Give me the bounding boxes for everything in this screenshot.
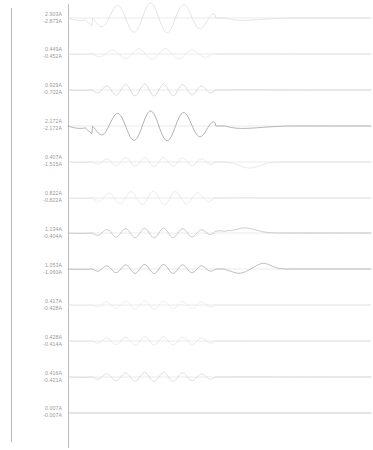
trace-row[interactable]: 0.407A-1.515A <box>0 145 373 179</box>
trace-value-labels: 0.449A-0.452A <box>0 46 64 60</box>
trace-row[interactable]: 1.134A-0.404A <box>0 216 373 250</box>
trace-value-labels: 0.428A-0.414A <box>0 334 64 348</box>
trace-max-label: 0.929A <box>0 82 64 89</box>
trace-max-label: 1.053A <box>0 262 64 269</box>
trace-value-labels: 0.417A-0.428A <box>0 298 64 312</box>
trace-row[interactable]: 2.903A-2.873A <box>0 1 373 35</box>
trace-value-labels: 1.053A-1.060A <box>0 262 64 276</box>
trace-row[interactable]: 1.053A-1.060A <box>0 252 373 286</box>
trace-min-label: -0.428A <box>0 305 64 312</box>
trace-max-label: 2.172A <box>0 118 64 125</box>
waveform-path <box>68 157 371 168</box>
trace-min-label: -0.822A <box>0 197 64 204</box>
trace-min-label: -1.060A <box>0 269 64 276</box>
trace-min-label: -2.172A <box>0 125 64 132</box>
trace-row[interactable]: 0.822A-0.822A <box>0 181 373 215</box>
trace-plot[interactable] <box>68 73 371 107</box>
trace-row[interactable]: 0.007A-0.007A <box>0 396 373 430</box>
trace-plot[interactable] <box>68 109 371 143</box>
trace-value-labels: 0.007A-0.007A <box>0 405 64 419</box>
trace-plot[interactable] <box>68 360 371 394</box>
trace-row[interactable]: 0.428A-0.414A <box>0 324 373 358</box>
waveform-path <box>68 264 371 274</box>
trace-min-label: -0.421A <box>0 377 64 384</box>
trace-value-labels: 1.134A-0.404A <box>0 226 64 240</box>
trace-row[interactable]: 0.929A-0.702A <box>0 73 373 107</box>
trace-max-label: 0.007A <box>0 405 64 412</box>
trace-value-labels: 0.416A-0.421A <box>0 370 64 384</box>
trace-min-label: -2.873A <box>0 18 64 25</box>
trace-row[interactable]: 0.449A-0.452A <box>0 37 373 71</box>
trace-value-labels: 0.929A-0.702A <box>0 82 64 96</box>
trace-value-labels: 0.822A-0.822A <box>0 190 64 204</box>
trace-max-label: 2.903A <box>0 11 64 18</box>
trace-plot[interactable] <box>68 396 371 430</box>
trace-value-labels: 0.407A-1.515A <box>0 154 64 168</box>
trace-min-label: -0.702A <box>0 89 64 96</box>
trace-min-label: -0.404A <box>0 233 64 240</box>
trace-max-label: 0.417A <box>0 298 64 305</box>
trace-value-labels: 2.172A-2.172A <box>0 118 64 132</box>
trace-max-label: 0.822A <box>0 190 64 197</box>
trace-min-label: -0.452A <box>0 53 64 60</box>
trace-plot[interactable] <box>68 252 371 286</box>
trace-min-label: -0.007A <box>0 412 64 419</box>
trace-min-label: -0.414A <box>0 341 64 348</box>
trace-row[interactable]: 2.172A-2.172A <box>0 109 373 143</box>
waveform-viewer: 2.903A-2.873A0.449A-0.452A0.929A-0.702A2… <box>0 0 373 450</box>
trace-value-labels: 2.903A-2.873A <box>0 11 64 25</box>
trace-plot[interactable] <box>68 324 371 358</box>
trace-row[interactable]: 0.416A-0.421A <box>0 360 373 394</box>
trace-max-label: 0.449A <box>0 46 64 53</box>
trace-max-label: 0.428A <box>0 334 64 341</box>
trace-plot[interactable] <box>68 145 371 179</box>
trace-plot[interactable] <box>68 181 371 215</box>
trace-max-label: 0.416A <box>0 370 64 377</box>
trace-plot[interactable] <box>68 37 371 71</box>
trace-max-label: 0.407A <box>0 154 64 161</box>
trace-plot[interactable] <box>68 288 371 322</box>
trace-plot[interactable] <box>68 1 371 35</box>
trace-min-label: -1.515A <box>0 161 64 168</box>
trace-row[interactable]: 0.417A-0.428A <box>0 288 373 322</box>
trace-plot[interactable] <box>68 216 371 250</box>
trace-max-label: 1.134A <box>0 226 64 233</box>
